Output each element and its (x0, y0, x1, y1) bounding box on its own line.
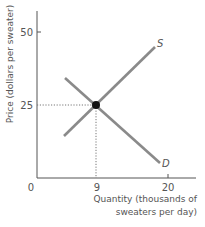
supply-label: S (157, 38, 164, 49)
y-tick-label-25: 25 (20, 100, 33, 111)
supply-curve (64, 47, 155, 136)
x-tick-label-20: 20 (162, 182, 175, 193)
y-tick-label-50: 50 (20, 27, 33, 38)
origin-label: 0 (28, 182, 34, 193)
demand-label: D (162, 158, 170, 169)
supply-demand-chart: S D 50 25 0 9 20 Price (dollars per swea… (0, 0, 205, 227)
x-axis-title-line2: sweaters per day) (116, 207, 197, 217)
x-tick-label-9: 9 (94, 182, 100, 193)
equilibrium-point (92, 101, 100, 109)
y-axis-title: Price (dollars per sweater) (5, 5, 15, 124)
x-axis-title-line1: Quantity (thousands of (93, 194, 197, 204)
